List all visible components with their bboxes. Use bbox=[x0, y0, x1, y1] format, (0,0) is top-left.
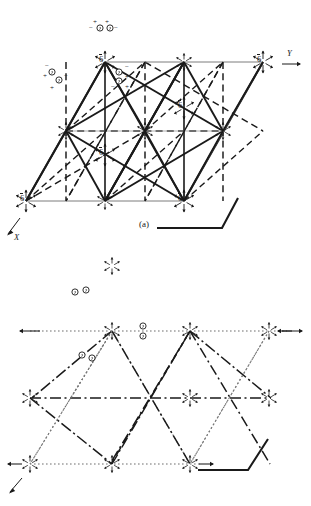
node-label-a-right: 6 bbox=[257, 55, 261, 64]
y-axis-arrow-a bbox=[282, 62, 301, 66]
sign-top-left-plus: + bbox=[93, 19, 97, 26]
sign-top-left-minus: − bbox=[89, 25, 93, 32]
position-cluster-left bbox=[49, 69, 62, 83]
sign-top-right-minus: − bbox=[114, 25, 118, 32]
sign-left-plus: + bbox=[43, 73, 47, 80]
height-marker-a bbox=[157, 198, 238, 228]
sign-mid-minus: − bbox=[125, 64, 129, 71]
figure-b-drawing bbox=[0, 253, 311, 506]
caption-a: (a) bbox=[139, 219, 149, 229]
figure-a: 6 6 6 6 6 6 + + − − − + + − − + − + Y X … bbox=[0, 0, 311, 253]
node-label-a-center: 6 bbox=[178, 101, 182, 110]
triangle-right-b bbox=[112, 331, 271, 398]
sign-left-minus2: − bbox=[64, 73, 68, 80]
position-cluster-b-lower bbox=[79, 352, 95, 361]
sign-mid-plus: + bbox=[125, 74, 129, 81]
node-label-a-botleft: 6 bbox=[20, 194, 24, 203]
x-axis-label-a: X bbox=[14, 232, 19, 242]
sign-left-minus: − bbox=[45, 63, 49, 70]
y-axis-arrow-b bbox=[282, 329, 303, 333]
height-marker-b bbox=[198, 439, 268, 470]
node-label-a-botright: 6 bbox=[178, 194, 182, 203]
x-axis-arrow-b bbox=[9, 478, 22, 494]
node-label-a-midleft: 6 bbox=[99, 148, 103, 157]
figure-a-drawing bbox=[0, 0, 311, 253]
position-cluster-b-top bbox=[72, 287, 89, 295]
sign-mid-plus2: + bbox=[125, 84, 129, 91]
sign-left-plus2: + bbox=[50, 85, 54, 92]
row-arrows-b bbox=[7, 329, 292, 466]
y-axis-label-a: Y bbox=[287, 48, 292, 58]
figure-b: 6(14) 6(14) 6(14) 6(14) 6 6(14) 12− + − … bbox=[0, 253, 311, 506]
position-cluster-mid bbox=[116, 69, 122, 84]
sign-mid-minus2: − bbox=[111, 84, 115, 91]
sign-top-right-plus: + bbox=[105, 19, 109, 26]
node-label-a-top: 6 bbox=[99, 55, 103, 64]
arrow-stars-b bbox=[22, 257, 277, 473]
